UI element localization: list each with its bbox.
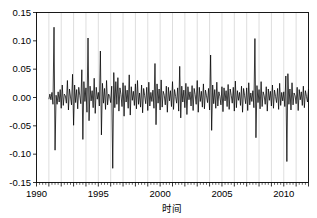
x-tick-label: 1990 bbox=[26, 188, 47, 199]
x-axis-title: 时间 bbox=[162, 203, 182, 214]
y-tick-label: -0.10 bbox=[9, 148, 31, 159]
x-tick-label: 1995 bbox=[88, 188, 109, 199]
y-tick-label: -0.05 bbox=[9, 120, 31, 131]
chart-background bbox=[0, 0, 317, 218]
y-tick-label: 0.10 bbox=[13, 35, 32, 46]
x-tick-label: 2010 bbox=[273, 188, 294, 199]
chart-container: -0.15-0.10-0.050.000.050.100.15199019952… bbox=[0, 0, 317, 218]
y-tick-label: 0.15 bbox=[13, 7, 32, 18]
y-tick-label: 0.00 bbox=[13, 92, 32, 103]
gridlines bbox=[49, 13, 296, 183]
y-tick-label: 0.05 bbox=[13, 63, 32, 74]
x-tick-label: 2005 bbox=[211, 188, 232, 199]
y-tick-label: -0.15 bbox=[9, 177, 31, 188]
x-tick-label: 2000 bbox=[150, 188, 171, 199]
time-series-chart: -0.15-0.10-0.050.000.050.100.15199019952… bbox=[0, 0, 317, 218]
